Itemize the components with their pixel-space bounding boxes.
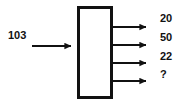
diagram-canvas: 103 20 50 22 ?: [0, 0, 186, 106]
block-diagram-graphic: [0, 0, 186, 106]
process-block: [79, 8, 112, 98]
output-value-label-1: 50: [160, 32, 172, 43]
output-value-label-3: ?: [160, 69, 167, 80]
output-value-label-2: 22: [160, 51, 172, 62]
input-value-label: 103: [8, 30, 26, 41]
output-value-label-0: 20: [160, 13, 172, 24]
